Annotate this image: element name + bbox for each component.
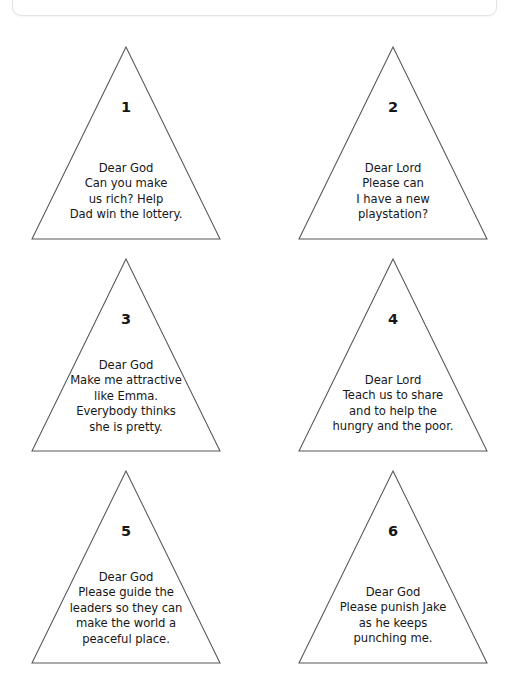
prayer-triangle-5[interactable]: 5 Dear God Please guide the leaders so t… [30,469,222,665]
prayer-triangle-1[interactable]: 1 Dear God Can you make us rich? Help Da… [30,45,222,241]
triangle-outline-icon [297,469,489,665]
triangle-outline-icon [297,45,489,241]
prayer-triangles-worksheet: 1 Dear God Can you make us rich? Help Da… [0,0,509,694]
triangle-outline-icon [30,257,222,453]
prayer-triangle-3[interactable]: 3 Dear God Make me attractive like Emma.… [30,257,222,453]
prayer-triangle-2[interactable]: 2 Dear Lord Please can I have a new play… [297,45,489,241]
prayer-triangle-6[interactable]: 6 Dear God Please punish Jake as he keep… [297,469,489,665]
triangle-outline-icon [30,45,222,241]
triangle-outline-icon [297,257,489,453]
triangle-outline-icon [30,469,222,665]
prayer-triangle-4[interactable]: 4 Dear Lord Teach us to share and to hel… [297,257,489,453]
